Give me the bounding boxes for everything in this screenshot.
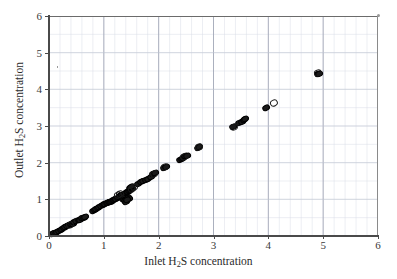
- data-point: [124, 195, 133, 204]
- data-point: [177, 155, 186, 164]
- data-point: [122, 188, 131, 196]
- data-point: [126, 183, 136, 192]
- y-tick-label: 0: [26, 230, 42, 242]
- data-point: [64, 221, 73, 229]
- data-point: [96, 202, 105, 210]
- data-point: [111, 195, 120, 204]
- data-point: [237, 117, 246, 125]
- data-point: [106, 197, 115, 205]
- data-point: [63, 222, 72, 230]
- data-point: [313, 70, 322, 78]
- y-axis-title-pre: Outlet H: [13, 138, 25, 178]
- y-tick-label: 1: [26, 193, 42, 205]
- data-point: [123, 188, 132, 196]
- data-point: [229, 123, 238, 131]
- y-axis-title-sub: 2: [18, 134, 27, 138]
- data-point: [105, 198, 114, 206]
- corner-marker-top-right: [377, 14, 380, 17]
- data-point: [133, 180, 142, 189]
- data-point: [79, 213, 88, 222]
- plot-frame-right: [377, 16, 378, 237]
- data-point: [65, 220, 75, 230]
- data-point: [88, 206, 97, 215]
- data-point: [235, 119, 244, 128]
- data-point: [179, 152, 189, 162]
- data-point: [74, 216, 84, 225]
- data-point: [107, 197, 116, 206]
- data-point: [117, 191, 126, 199]
- data-point: [269, 98, 279, 108]
- data-point: [151, 169, 160, 177]
- data-point: [92, 205, 101, 213]
- scatter-plot-figure: 0123456 0123456 Inlet H2S concentration …: [0, 0, 397, 279]
- data-point: [125, 183, 134, 192]
- data-point: [113, 193, 123, 202]
- x-tick-label: 3: [204, 239, 224, 251]
- stray-speck: [57, 66, 58, 68]
- data-point: [229, 122, 239, 131]
- y-tick: [45, 126, 48, 127]
- data-point: [313, 68, 323, 77]
- y-tick: [45, 199, 48, 200]
- data-point: [241, 115, 251, 124]
- data-point: [180, 152, 189, 161]
- y-tick-label: 5: [26, 47, 42, 59]
- data-points-layer: [49, 16, 378, 236]
- data-point: [128, 184, 137, 193]
- data-point: [139, 177, 148, 185]
- y-tick-label: 4: [26, 83, 42, 95]
- x-tick-label: 5: [313, 239, 333, 251]
- data-point: [98, 201, 107, 209]
- data-point: [146, 172, 155, 181]
- y-tick: [45, 236, 48, 237]
- data-point: [116, 191, 125, 199]
- data-point: [72, 217, 81, 226]
- data-point: [182, 152, 191, 160]
- data-point: [61, 223, 70, 231]
- data-point: [143, 174, 153, 183]
- data-point: [125, 187, 134, 195]
- data-point: [121, 189, 130, 197]
- data-point: [121, 197, 131, 206]
- data-point: [175, 156, 184, 164]
- x-tick-label: 0: [39, 239, 59, 251]
- x-axis-title-pre: Inlet H: [144, 255, 176, 267]
- data-point: [70, 218, 79, 227]
- x-axis-title: Inlet H2S concentration: [0, 255, 397, 269]
- data-point: [101, 200, 110, 209]
- major-gridlines: [49, 16, 378, 236]
- data-point: [115, 192, 125, 201]
- data-point: [314, 69, 323, 78]
- data-point: [57, 225, 67, 234]
- y-tick: [45, 53, 48, 54]
- data-point: [149, 170, 158, 178]
- data-point: [193, 143, 202, 151]
- x-axis-title-post: S concentration: [181, 255, 253, 267]
- data-point: [54, 227, 63, 235]
- data-point: [127, 184, 137, 194]
- data-point: [194, 143, 204, 152]
- data-point: [112, 194, 121, 202]
- y-tick: [45, 16, 48, 17]
- y-axis-line: [48, 15, 50, 237]
- y-tick-label: 3: [26, 120, 42, 132]
- data-point: [77, 214, 86, 222]
- data-point: [129, 183, 139, 192]
- data-point: [104, 198, 113, 206]
- minor-gridlines: [49, 16, 378, 236]
- x-tick-label: 2: [149, 239, 169, 251]
- y-tick: [45, 163, 48, 164]
- data-point: [76, 215, 85, 224]
- y-tick-label: 2: [26, 157, 42, 169]
- y-tick-label: 6: [26, 10, 42, 22]
- data-point: [141, 176, 150, 184]
- plot-frame-top: [49, 16, 379, 17]
- data-point: [95, 203, 104, 212]
- data-point: [119, 192, 128, 200]
- data-point: [123, 193, 132, 201]
- data-point: [114, 192, 123, 201]
- y-tick: [45, 89, 48, 90]
- data-point: [56, 226, 65, 235]
- data-point: [118, 194, 127, 203]
- data-point: [162, 163, 171, 172]
